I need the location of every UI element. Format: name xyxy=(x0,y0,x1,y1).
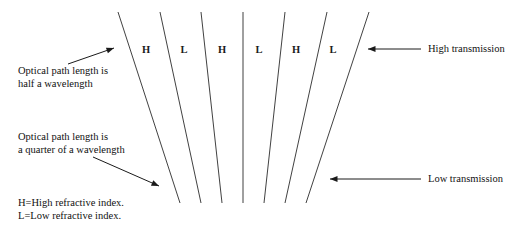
half-wavelength-note: Optical path length ishalf a wavelength xyxy=(18,64,108,91)
annotation-arrows xyxy=(68,46,421,186)
half-wavelength-arrow-head xyxy=(106,48,114,54)
index-key-note: H=High refractive index.L=Low refractive… xyxy=(18,196,124,223)
layer-label-l-3: L xyxy=(255,45,262,56)
index-key-note-line-1: L=Low refractive index. xyxy=(18,209,124,222)
quarter-wavelength-note: Optical path length isa quarter of a wav… xyxy=(18,130,125,157)
half-wavelength-note-line-0: Optical path length is xyxy=(18,64,108,77)
low-transmission-arrow-head xyxy=(330,176,338,182)
layer-boundary-line xyxy=(264,12,285,203)
layer-boundary-lines xyxy=(118,12,369,203)
layer-label-h-0: H xyxy=(142,45,150,56)
quarter-wavelength-arrow-shaft xyxy=(93,157,159,186)
low-transmission-label: Low transmission xyxy=(428,174,503,185)
layer-label-h-2: H xyxy=(218,45,226,56)
quarter-wavelength-arrow-head xyxy=(151,180,159,186)
high-transmission-arrow-head xyxy=(368,46,376,52)
index-key-note-line-0: H=High refractive index. xyxy=(18,196,124,209)
layer-label-h-4: H xyxy=(292,45,300,56)
half-wavelength-note-line-1: half a wavelength xyxy=(18,77,108,90)
layer-label-l-5: L xyxy=(329,45,336,56)
quarter-wavelength-note-line-1: a quarter of a wavelength xyxy=(18,143,125,156)
quarter-wavelength-note-line-0: Optical path length is xyxy=(18,130,125,143)
layer-boundary-line xyxy=(118,12,180,203)
layer-boundary-line xyxy=(201,12,222,203)
layer-boundary-line xyxy=(285,12,327,203)
high-transmission-label: High transmission xyxy=(428,44,505,55)
layer-boundary-line xyxy=(160,12,201,203)
layer-boundary-line xyxy=(306,12,369,203)
layer-label-l-1: L xyxy=(180,45,187,56)
